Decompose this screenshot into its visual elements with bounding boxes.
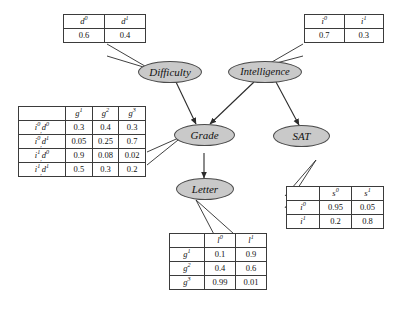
difficulty-value-d1: 0.4 [105,28,146,42]
letter-cell-2-0: 0.99 [205,275,236,289]
intelligence-value-i0: 0.7 [305,28,345,42]
table-row: i1 0.2 0.8 [287,214,384,228]
table-row: i1,d0 0.9 0.08 0.02 [19,148,146,162]
difficulty-header-d1: d1 [105,15,146,29]
sat-row-label-1: i1 [287,214,320,228]
grade-row-label-1: i0,d1 [19,134,66,148]
grade-cell-0-2: 0.3 [119,120,146,134]
table-row: i0,d0 0.3 0.4 0.3 [19,120,146,134]
grade-cell-1-0: 0.05 [66,134,93,148]
grade-cell-3-2: 0.2 [119,162,146,176]
edge-intelligence-grade [210,82,254,124]
table-row: d0 d1 [64,15,146,29]
table-row: i0,d1 0.05 0.25 0.7 [19,134,146,148]
sat-header-s1: s1 [352,187,384,201]
table-row: g3 0.99 0.01 [170,275,267,289]
grade-header-g1: g1 [66,107,93,121]
sat-cell-1-0: 0.2 [320,214,352,228]
letter-row-label-0: g1 [170,247,205,261]
intelligence-cpt: i0 i1 0.7 0.3 [304,14,384,43]
sat-cell-0-1: 0.05 [352,200,384,214]
node-grade[interactable]: Grade [174,124,235,146]
grade-header-g3: g3 [119,107,146,121]
letter-cpt: l0 l1 g1 0.1 0.9 g2 0.4 0.6 g3 0.99 0.0 [169,233,267,290]
node-letter-label: Letter [192,184,218,195]
difficulty-value-d0: 0.6 [64,28,105,42]
sat-cell-1-1: 0.8 [352,214,384,228]
intelligence-value-i1: 0.3 [344,28,384,42]
table-row: g1 0.1 0.9 [170,247,267,261]
letter-cell-1-1: 0.6 [236,261,267,275]
sat-cpt: s0 s1 i0 0.95 0.05 i1 0.2 0.8 [286,186,384,229]
sat-corner-cell [287,187,320,201]
table-row: l0 l1 [170,234,267,248]
grade-row-label-0: i0,d0 [19,120,66,134]
grade-cell-0-0: 0.3 [66,120,93,134]
intelligence-header-i0: i0 [305,15,345,29]
table-row: 0.6 0.4 [64,28,146,42]
letter-cell-0-1: 0.9 [236,247,267,261]
letter-header-l0: l0 [205,234,236,248]
edge-intelligence-sat [276,82,299,125]
node-difficulty-label: Difficulty [149,67,191,78]
letter-header-l1: l1 [236,234,267,248]
grade-cell-2-0: 0.9 [66,148,93,162]
sat-row-label-0: i0 [287,200,320,214]
intelligence-header-i1: i1 [344,15,384,29]
grade-header-g2: g2 [92,107,119,121]
grade-cell-1-2: 0.7 [119,134,146,148]
node-sat[interactable]: SAT [273,125,330,147]
grade-cell-3-0: 0.5 [66,162,93,176]
sat-cell-0-0: 0.95 [320,200,352,214]
grade-cpt: g1 g2 g3 i0,d0 0.3 0.4 0.3 i0,d1 0.05 0.… [18,106,146,177]
grade-cell-2-2: 0.02 [119,148,146,162]
grade-cell-2-1: 0.08 [92,148,119,162]
table-row: 0.7 0.3 [305,28,384,42]
node-letter[interactable]: Letter [176,178,234,200]
table-row: i0 0.95 0.05 [287,200,384,214]
letter-cell-2-1: 0.01 [236,275,267,289]
grade-cell-3-1: 0.3 [92,162,119,176]
node-difficulty[interactable]: Difficulty [138,61,202,83]
grade-row-label-2: i1,d0 [19,148,66,162]
table-row: s0 s1 [287,187,384,201]
node-intelligence[interactable]: Intelligence [228,61,302,83]
letter-row-label-2: g3 [170,275,205,289]
node-intelligence-label: Intelligence [240,67,290,78]
difficulty-header-d0: d0 [64,15,105,29]
grade-cell-1-1: 0.25 [92,134,119,148]
bayesian-network-diagram: Difficulty Intelligence Grade SAT Letter… [0,0,399,311]
node-sat-label: SAT [293,131,311,142]
node-grade-label: Grade [190,130,218,141]
difficulty-cpt: d0 d1 0.6 0.4 [63,14,146,43]
edge-difficulty-grade [176,82,196,124]
grade-row-label-3: i1,d1 [19,162,66,176]
grade-corner-cell [19,107,66,121]
letter-row-label-1: g2 [170,261,205,275]
table-row: g1 g2 g3 [19,107,146,121]
letter-cell-0-0: 0.1 [205,247,236,261]
letter-corner-cell [170,234,205,248]
sat-header-s0: s0 [320,187,352,201]
table-row: i0 i1 [305,15,384,29]
grade-cell-0-1: 0.4 [92,120,119,134]
table-row: i1,d1 0.5 0.3 0.2 [19,162,146,176]
table-row: g2 0.4 0.6 [170,261,267,275]
letter-cell-1-0: 0.4 [205,261,236,275]
